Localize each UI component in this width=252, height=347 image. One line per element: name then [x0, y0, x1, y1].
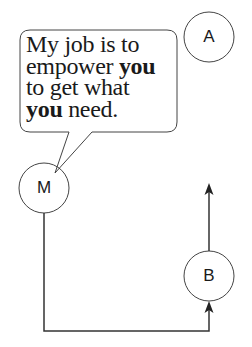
node-b-label: B	[184, 266, 234, 286]
speech-bubble-text: My job is to empower you to get what you…	[26, 34, 186, 120]
node-m-label: M	[19, 178, 69, 198]
bubble-text-segment: need.	[62, 96, 118, 122]
node-a-label: A	[184, 27, 234, 47]
bubble-line-4: you need.	[26, 99, 186, 121]
bubble-text-emphasis: you	[26, 96, 62, 122]
